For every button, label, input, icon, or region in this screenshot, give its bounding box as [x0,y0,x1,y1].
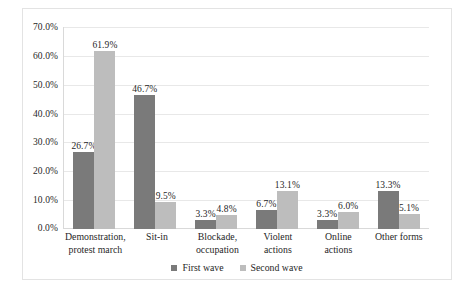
category-label: Sit-in [127,231,187,256]
bar-first-wave[interactable] [134,95,155,229]
plot-area: 70.0% 60.0% 50.0% 40.0% 30.0% 20.0% 10.0… [64,27,429,229]
category-label-line [370,244,428,257]
y-tick-label-20: 20.0% [33,166,58,176]
bar-second-wave[interactable] [94,51,115,229]
bar-second-wave[interactable] [399,214,420,229]
bar-first-wave[interactable] [73,152,94,229]
legend-swatch-icon-first-wave [171,265,177,271]
category-label-line: Demonstration, [65,231,126,244]
category-axis-labels: Demonstration,protest marchSit-in Blocka… [64,231,429,256]
chart-frame: 70.0% 60.0% 50.0% 40.0% 30.0% 20.0% 10.0… [22,8,452,280]
chart-legend: First wave Second wave [23,262,451,273]
bar-wrapper: 61.9% [94,51,115,229]
bar-value-label: 4.8% [216,204,236,214]
y-tick-label-50: 50.0% [33,80,58,90]
bar-value-label: 13.3% [376,180,401,190]
bar-second-wave[interactable] [338,212,359,229]
bar-group: 26.7%61.9% [64,27,125,229]
bar-wrapper: 46.7% [134,95,155,229]
bar-group: 3.3%6.0% [307,27,368,229]
y-tick-label-30: 30.0% [33,137,58,147]
bar-value-label: 6.0% [338,201,358,211]
legend-item-second-wave[interactable]: Second wave [240,262,303,273]
y-tick-label-60: 60.0% [33,51,58,61]
category-label-line: Other forms [370,231,428,244]
category-label-line: protest march [65,244,126,257]
bar-value-label: 6.7% [256,199,276,209]
legend-item-first-wave[interactable]: First wave [171,262,223,273]
category-label: Blockade,occupation [187,231,247,256]
bar-wrapper: 6.7% [256,210,277,229]
bar-value-label: 26.7% [71,141,96,151]
category-label-line: Violent [249,231,307,244]
bar-group: 3.3%4.8% [186,27,247,229]
bar-second-wave[interactable] [216,215,237,229]
bar-value-label: 46.7% [132,84,157,94]
category-label-line [128,244,186,257]
category-label: Demonstration,protest march [64,231,127,256]
y-tick-label-10: 10.0% [33,195,58,205]
bar-value-label: 61.9% [92,40,117,50]
category-label-line: Blockade, [188,231,246,244]
bar-groups: 26.7%61.9%46.7%9.5%3.3%4.8%6.7%13.1%3.3%… [64,27,429,229]
bar-second-wave[interactable] [155,202,176,229]
bar-value-label: 13.1% [275,180,300,190]
bar-group: 46.7%9.5% [125,27,186,229]
bar-group: 13.3%5.1% [368,27,429,229]
bar-value-label: 5.1% [399,203,419,213]
legend-label-first-wave: First wave [182,262,223,273]
bar-group: 6.7%13.1% [246,27,307,229]
bar-wrapper: 13.1% [277,191,298,229]
y-tick-label-40: 40.0% [33,109,58,119]
bar-first-wave[interactable] [195,220,216,229]
legend-label-second-wave: Second wave [251,262,303,273]
legend-swatch-icon-second-wave [240,265,246,271]
category-label: Other forms [369,231,429,256]
bar-first-wave[interactable] [317,220,338,229]
category-label: Violentactions [248,231,308,256]
category-label-line: actions [309,244,367,257]
bar-wrapper: 13.3% [378,191,399,229]
category-label-line: Sit-in [128,231,186,244]
bar-first-wave[interactable] [378,191,399,229]
y-tick-label-0: 0.0% [38,223,58,233]
bar-wrapper: 3.3% [195,220,216,229]
category-label-line: Online [309,231,367,244]
bar-value-label: 3.3% [195,209,215,219]
bar-value-label: 3.3% [317,209,337,219]
bar-wrapper: 26.7% [73,152,94,229]
category-label-line: actions [249,244,307,257]
bar-first-wave[interactable] [256,210,277,229]
y-tick-label-70: 70.0% [33,22,58,32]
category-label-line: occupation [188,244,246,257]
bar-value-label: 9.5% [156,191,176,201]
bar-wrapper: 9.5% [155,202,176,229]
bar-wrapper: 3.3% [317,220,338,229]
bar-second-wave[interactable] [277,191,298,229]
bar-wrapper: 5.1% [399,214,420,229]
bar-wrapper: 6.0% [338,212,359,229]
bar-wrapper: 4.8% [216,215,237,229]
category-label: Onlineactions [308,231,368,256]
